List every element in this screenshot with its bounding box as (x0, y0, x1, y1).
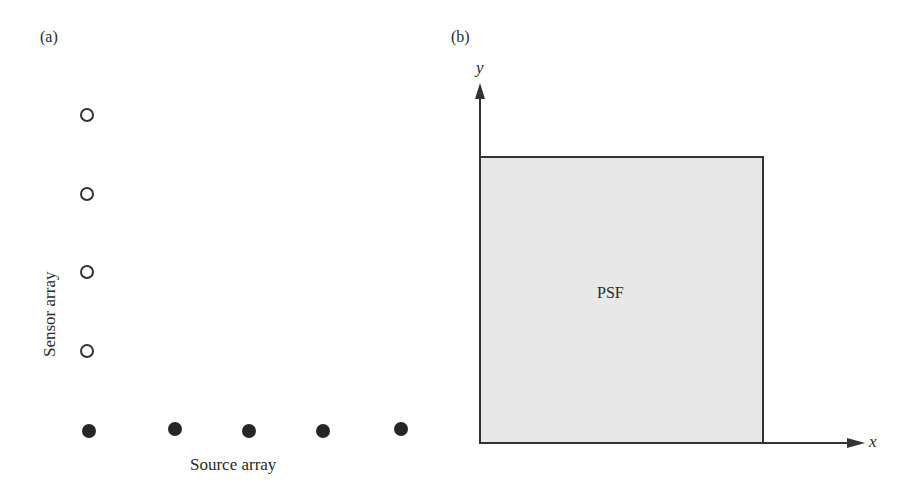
psf-label: PSF (597, 284, 624, 302)
x-axis-arrow-icon (847, 438, 865, 448)
y-axis-arrow-icon (475, 83, 485, 99)
x-axis-label: x (869, 432, 877, 452)
y-axis-label: y (476, 58, 484, 78)
psf-plot (0, 0, 909, 493)
